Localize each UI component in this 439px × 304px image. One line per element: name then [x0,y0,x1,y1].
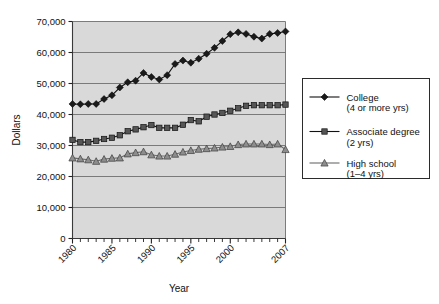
y-tick-label: 30,000 [36,140,65,151]
data-point-square [157,125,162,130]
data-point-square [141,125,146,130]
y-tick-label: 60,000 [36,47,65,58]
y-axis-title: Dollars [11,114,22,145]
legend-item-sublabel: (1–4 yrs) [347,168,384,179]
data-point-square [212,112,217,117]
x-tick-label: 2007 [269,242,292,265]
data-point-square [164,125,169,130]
y-tick-label: 10,000 [36,202,65,213]
data-point-square [86,139,91,144]
y-tick-label: 40,000 [36,109,65,120]
data-point-square [275,103,280,108]
data-point-square [125,129,130,134]
x-axis: 198019851990199520002007 [56,239,292,265]
x-tick-label: 1995 [174,242,197,265]
data-point-square [251,103,256,108]
data-point-square [283,102,288,107]
legend-item-sublabel: (2 yrs) [347,137,374,148]
data-point-square [196,119,201,124]
plot-background [73,22,286,239]
x-tick-label: 2000 [213,242,236,265]
data-point-square [228,108,233,113]
data-point-square [101,136,106,141]
y-tick-label: 50,000 [36,78,65,89]
data-point-square [70,137,75,142]
x-axis-title: Year [169,283,190,294]
x-tick-label: 1980 [56,242,79,265]
legend-item-label: College [347,92,379,103]
data-point-square [172,125,177,130]
data-point-square [188,117,193,122]
data-point-square [133,127,138,132]
data-point-square [243,103,248,108]
legend-item-label: High school [347,158,397,169]
data-point-square [149,122,154,127]
data-point-square [267,103,272,108]
data-point-square [259,103,264,108]
x-tick-label: 1985 [95,242,118,265]
data-point-square [93,138,98,143]
legend-item-label: Associate degree [347,126,420,137]
data-point-square [78,139,83,144]
data-point-square [204,114,209,119]
data-point-square [117,133,122,138]
data-point-square [109,135,114,140]
data-point-square [235,106,240,111]
chart-container: 010,00020,00030,00040,00050,00060,00070,… [0,0,439,304]
y-tick-label: 0 [60,233,65,244]
x-tick-label: 1990 [135,242,158,265]
line-chart: 010,00020,00030,00040,00050,00060,00070,… [0,0,439,304]
y-tick-label: 70,000 [36,16,65,27]
legend: College(4 or more yrs)Associate degree(2… [303,79,430,180]
data-point-square [220,110,225,115]
data-point-square [322,129,327,134]
legend-item-sublabel: (4 or more yrs) [347,102,409,113]
data-point-square [180,122,185,127]
y-tick-label: 20,000 [36,171,65,182]
y-axis: 010,00020,00030,00040,00050,00060,00070,… [36,16,72,244]
